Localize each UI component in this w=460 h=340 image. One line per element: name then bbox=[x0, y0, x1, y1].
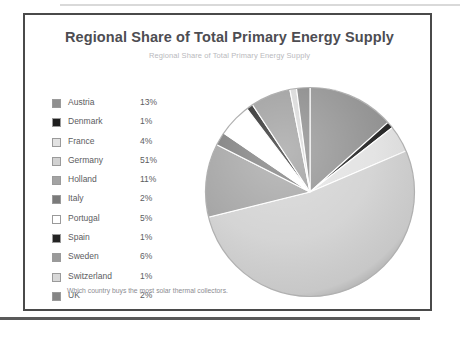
legend-swatch bbox=[52, 157, 61, 166]
legend-item[interactable]: Austria13% bbox=[52, 96, 192, 115]
legend-label: Spain bbox=[68, 232, 90, 242]
legend-item[interactable]: Germany51% bbox=[52, 154, 192, 173]
legend-label: Austria bbox=[68, 97, 94, 107]
legend-item[interactable]: Portugal5% bbox=[52, 212, 192, 231]
pie-chart bbox=[201, 83, 419, 301]
legend-label: Italy bbox=[68, 193, 84, 203]
legend-value: 1% bbox=[140, 271, 152, 281]
chart-legend: Austria13%Denmark1%France4%Germany51%Hol… bbox=[52, 96, 192, 308]
legend-value: 13% bbox=[140, 97, 157, 107]
legend-item[interactable]: Spain1% bbox=[52, 231, 192, 250]
legend-swatch bbox=[52, 234, 61, 243]
legend-label: Holland bbox=[68, 174, 97, 184]
legend-swatch bbox=[52, 118, 61, 127]
top-bar bbox=[0, 0, 460, 9]
legend-swatch bbox=[52, 215, 61, 224]
legend-swatch bbox=[52, 273, 61, 282]
legend-value: 1% bbox=[140, 232, 152, 242]
legend-swatch bbox=[52, 99, 61, 108]
chart-subtitle: Regional Share of Total Primary Energy S… bbox=[25, 51, 434, 60]
legend-value: 2% bbox=[140, 193, 152, 203]
legend-swatch bbox=[52, 138, 61, 147]
legend-label: France bbox=[68, 136, 94, 146]
legend-swatch bbox=[52, 253, 61, 262]
bottom-divider-rule bbox=[0, 317, 420, 320]
bottom-bar bbox=[0, 315, 460, 340]
legend-swatch bbox=[52, 292, 61, 301]
legend-item[interactable]: Denmark1% bbox=[52, 115, 192, 134]
legend-label: Sweden bbox=[68, 251, 99, 261]
legend-label: Denmark bbox=[68, 116, 102, 126]
legend-value: 1% bbox=[140, 116, 152, 126]
legend-item[interactable]: France4% bbox=[52, 135, 192, 154]
legend-value: 11% bbox=[140, 174, 156, 184]
legend-swatch bbox=[52, 195, 61, 204]
legend-label: Switzerland bbox=[68, 271, 112, 281]
legend-value: 51% bbox=[140, 155, 157, 165]
top-divider-rule bbox=[60, 4, 460, 6]
chart-frame: Regional Share of Total Primary Energy S… bbox=[23, 13, 432, 311]
legend-item[interactable]: Holland11% bbox=[52, 173, 192, 192]
chart-caption: Which country buys the most solar therma… bbox=[67, 287, 228, 294]
pie-chart-svg bbox=[201, 83, 419, 301]
legend-swatch bbox=[52, 176, 61, 185]
legend-label: Portugal bbox=[68, 213, 100, 223]
legend-value: 5% bbox=[140, 213, 152, 223]
chart-title: Regional Share of Total Primary Energy S… bbox=[25, 29, 434, 45]
legend-label: Germany bbox=[68, 155, 103, 165]
legend-item[interactable]: Italy2% bbox=[52, 192, 192, 211]
legend-value: 4% bbox=[140, 136, 152, 146]
legend-value: 6% bbox=[140, 251, 152, 261]
legend-item[interactable]: Sweden6% bbox=[52, 250, 192, 269]
